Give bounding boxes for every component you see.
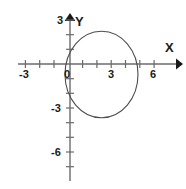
x-axis-arrow-icon bbox=[176, 59, 183, 70]
x-tick-label-6: 6 bbox=[150, 69, 156, 80]
y-tick-label-neg6: -6 bbox=[51, 147, 61, 158]
y-axis-label: Y bbox=[75, 15, 84, 28]
coordinate-plane-svg bbox=[0, 0, 186, 189]
x-tick-label-0: 0 bbox=[64, 69, 70, 80]
x-tick-label-neg3: -3 bbox=[19, 69, 29, 80]
x-tick-label-3: 3 bbox=[108, 69, 114, 80]
y-tick-label-3: 3 bbox=[57, 15, 63, 26]
circle-curve bbox=[65, 31, 138, 117]
y-tick-label-neg3: -3 bbox=[51, 103, 61, 114]
graph-figure: X Y -3 0 3 6 3 -3 -6 bbox=[0, 0, 186, 189]
x-axis-label: X bbox=[165, 41, 174, 54]
